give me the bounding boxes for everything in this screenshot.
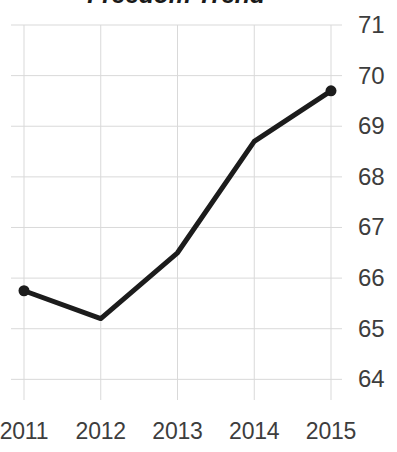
- y-axis-tick-label: 66: [358, 266, 397, 290]
- y-axis-tick-label: 67: [358, 215, 397, 239]
- y-axis-tick-label: 70: [358, 64, 397, 88]
- vertical-gridlines: [24, 25, 331, 400]
- y-axis-tick-label: 64: [358, 367, 397, 391]
- y-axis-tick-label: 69: [358, 114, 397, 138]
- x-axis-tick-label: 2015: [286, 418, 376, 444]
- data-point-marker: [19, 285, 30, 296]
- chart-figure: Freedom Trend 7170696867666564 201120122…: [0, 0, 397, 452]
- line-chart-svg: [11, 25, 342, 392]
- plot-area: [11, 25, 342, 392]
- chart-title: Freedom Trend: [0, 0, 352, 8]
- y-axis-tick-label: 68: [358, 165, 397, 189]
- horizontal-gridlines: [11, 25, 342, 379]
- y-axis-tick-label: 71: [358, 13, 397, 37]
- y-axis-tick-label: 65: [358, 317, 397, 341]
- data-point-marker: [326, 85, 337, 96]
